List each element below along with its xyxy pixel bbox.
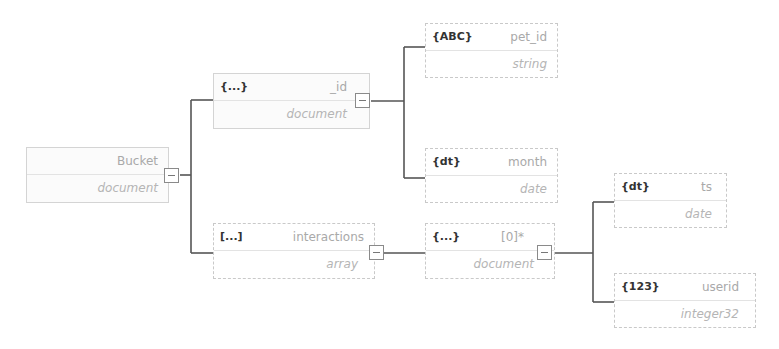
node-bucket[interactable]: Bucket document <box>26 147 169 203</box>
node-interactions[interactable]: [...] interactions array <box>213 223 375 279</box>
node-id[interactable]: {...} _id document <box>213 73 370 129</box>
node-type-row: array <box>214 251 374 278</box>
node-type: array <box>326 257 358 271</box>
node-type: document <box>97 181 158 195</box>
node-name: _id <box>330 80 347 94</box>
node-name: userid <box>702 280 739 294</box>
node-type: document <box>286 107 347 121</box>
node-pet-id[interactable]: {ABC} pet_id string <box>425 23 558 78</box>
node-header: {ABC} pet_id <box>426 24 557 51</box>
node-month[interactable]: {dt} month date <box>425 148 558 203</box>
node-userid[interactable]: {123} userid integer32 <box>614 273 756 328</box>
string-type-icon: {ABC} <box>432 30 473 43</box>
node-type: string <box>513 57 547 71</box>
collapse-id-button[interactable] <box>355 93 370 108</box>
schema-tree-diagram: Bucket document {...} _id document {ABC}… <box>0 0 779 349</box>
node-header: {...} [0]* <box>426 224 554 251</box>
node-header: {123} userid <box>615 274 755 301</box>
node-name: month <box>508 155 547 169</box>
collapse-array-item-button[interactable] <box>537 245 552 260</box>
node-type-row: integer32 <box>615 301 755 328</box>
node-type-row: string <box>426 51 557 78</box>
node-ts[interactable]: {dt} ts date <box>614 173 727 228</box>
node-name: interactions <box>293 230 364 244</box>
document-type-icon: {...} <box>220 80 248 93</box>
node-type-row: document <box>214 101 369 128</box>
document-type-icon: {...} <box>432 230 460 243</box>
node-type: date <box>520 182 547 196</box>
node-name: [0]* <box>501 230 524 244</box>
node-name: ts <box>701 180 712 194</box>
date-type-icon: {dt} <box>621 180 650 193</box>
collapse-interactions-button[interactable] <box>369 245 384 260</box>
node-type: date <box>685 207 712 221</box>
node-header: {dt} month <box>426 149 557 176</box>
node-type-row: document <box>426 251 554 278</box>
node-type: integer32 <box>681 307 739 321</box>
node-type-row: document <box>27 175 168 202</box>
node-header: {dt} ts <box>615 174 726 201</box>
collapse-bucket-button[interactable] <box>164 168 179 183</box>
array-type-icon: [...] <box>220 230 243 243</box>
node-header: [...] interactions <box>214 224 374 251</box>
node-type-row: date <box>426 176 557 203</box>
date-type-icon: {dt} <box>432 155 461 168</box>
node-array-item-0[interactable]: {...} [0]* document <box>425 223 555 279</box>
node-type-row: date <box>615 201 726 228</box>
node-type: document <box>473 257 534 271</box>
node-header: {...} _id <box>214 74 369 101</box>
integer-type-icon: {123} <box>621 280 660 293</box>
node-header: Bucket <box>27 148 168 175</box>
node-name: pet_id <box>510 30 547 44</box>
node-name: Bucket <box>117 154 158 168</box>
